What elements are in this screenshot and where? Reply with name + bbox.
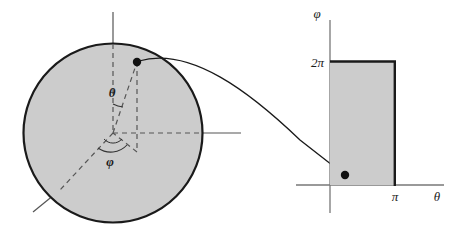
- phi-angle-label: φ: [106, 154, 114, 169]
- figure-canvas: θ φ φ θ: [0, 0, 458, 233]
- theta-angle-label: θ: [109, 85, 116, 100]
- two-pi-tick-label: 2π: [311, 55, 325, 70]
- theta-axis-label: θ: [434, 189, 441, 204]
- figure-container: θ φ φ θ: [0, 0, 458, 233]
- point-on-sphere[interactable]: [133, 58, 141, 66]
- point-in-domain[interactable]: [341, 171, 349, 179]
- phi-axis-label: φ: [313, 6, 320, 21]
- parameter-domain-diagram: φ θ 2π π: [296, 6, 444, 213]
- pi-tick-label: π: [392, 189, 399, 204]
- parameter-domain-rect: [330, 61, 395, 185]
- sphere-diagram: θ φ: [24, 12, 242, 223]
